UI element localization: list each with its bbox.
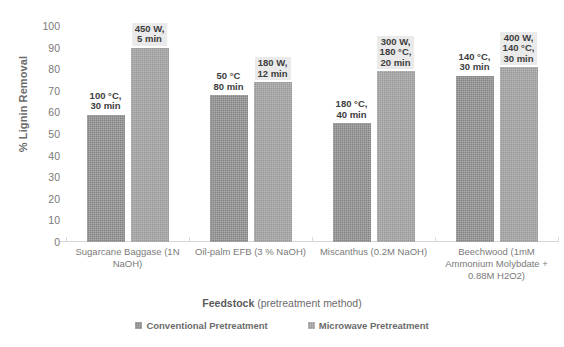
bar-slot: 300 W,180 °C,20 min xyxy=(377,26,415,242)
bar-data-label: 50 °C80 min xyxy=(210,70,246,93)
y-axis-tick: 90 xyxy=(48,42,60,53)
bar-slot: 50 °C80 min xyxy=(210,26,248,242)
y-axis-tick: 30 xyxy=(48,172,60,183)
y-axis-tick: 50 xyxy=(48,129,60,140)
y-axis-tick: 100 xyxy=(42,21,60,32)
bar-slot: 140 °C,30 min xyxy=(456,26,494,242)
y-axis-tick: 60 xyxy=(48,107,60,118)
x-axis-category-label: Oil-palm EFB (3 % NaOH) xyxy=(189,246,312,282)
bar-group: 180 °C,40 min300 W,180 °C,20 min xyxy=(312,26,435,242)
bar-conventional[interactable]: 180 °C,40 min xyxy=(333,123,371,242)
y-axis-tick: 20 xyxy=(48,193,60,204)
legend-swatch-icon xyxy=(308,322,315,329)
x-axis-category-label: Sugarcane Baggase (1N NaOH) xyxy=(66,246,189,282)
x-axis-category-label: Beechwood (1mM Ammonium Molybdate + 0.88… xyxy=(435,246,558,282)
y-axis-tick: 80 xyxy=(48,64,60,75)
bar-slot: 180 °C,40 min xyxy=(333,26,371,242)
x-axis-title: Feedstock (pretreatment method) xyxy=(0,297,564,309)
bar-microwave[interactable]: 300 W,180 °C,20 min xyxy=(377,71,415,242)
legend-item[interactable]: Microwave Pretreatment xyxy=(308,320,429,331)
bar-microwave[interactable]: 180 W,12 min xyxy=(254,82,292,242)
legend-item[interactable]: Conventional Pretreatment xyxy=(135,320,267,331)
x-axis-category-label: Miscanthus (0.2M NaOH) xyxy=(312,246,435,282)
legend-label: Microwave Pretreatment xyxy=(319,320,429,331)
y-axis-tick: 0 xyxy=(54,237,60,248)
bar-microwave[interactable]: 400 W,140 °C,30 min xyxy=(500,67,538,242)
bar-data-label: 180 °C,40 min xyxy=(333,98,371,121)
x-axis-tick-mark xyxy=(66,237,67,242)
chart-legend: Conventional PretreatmentMicrowave Pretr… xyxy=(0,320,564,331)
x-axis-category-labels: Sugarcane Baggase (1N NaOH)Oil-palm EFB … xyxy=(66,246,558,282)
bar-conventional[interactable]: 50 °C80 min xyxy=(210,95,248,242)
y-axis-tick: 70 xyxy=(48,85,60,96)
bar-slot: 400 W,140 °C,30 min xyxy=(500,26,538,242)
bar-slot: 450 W,5 min xyxy=(131,26,169,242)
bar-data-label: 450 W,5 min xyxy=(132,23,168,46)
y-axis-tick-labels: 1009080706050403020100 xyxy=(22,26,60,242)
bar-group: 100 °C,30 min450 W,5 min xyxy=(66,26,189,242)
bar-data-label: 140 °C,30 min xyxy=(456,51,494,74)
bar-conventional[interactable]: 100 °C,30 min xyxy=(87,115,125,242)
bar-data-label: 100 °C,30 min xyxy=(87,90,125,113)
plot-area: 100 °C,30 min450 W,5 min50 °C80 min180 W… xyxy=(66,26,558,242)
x-axis-tick-mark xyxy=(558,237,559,242)
x-axis-tick-mark xyxy=(435,237,436,242)
x-axis-title-bold: Feedstock xyxy=(202,297,254,309)
bar-slot: 180 W,12 min xyxy=(254,26,292,242)
bar-chart: % Lignin Removal 1009080706050403020100 … xyxy=(0,0,564,347)
legend-label: Conventional Pretreatment xyxy=(146,320,267,331)
y-axis-tick: 40 xyxy=(48,150,60,161)
bar-data-label: 180 W,12 min xyxy=(254,57,290,80)
x-axis-tick-mark xyxy=(189,237,190,242)
y-axis-tick: 10 xyxy=(48,215,60,226)
bar-data-label: 400 W,140 °C,30 min xyxy=(500,32,538,66)
bar-conventional[interactable]: 140 °C,30 min xyxy=(456,76,494,242)
bar-group: 50 °C80 min180 W,12 min xyxy=(189,26,312,242)
bar-data-label: 300 W,180 °C,20 min xyxy=(377,36,415,70)
x-axis-title-rest: (pretreatment method) xyxy=(254,297,361,309)
bar-slot: 100 °C,30 min xyxy=(87,26,125,242)
bar-groups: 100 °C,30 min450 W,5 min50 °C80 min180 W… xyxy=(66,26,558,242)
bar-group: 140 °C,30 min400 W,140 °C,30 min xyxy=(435,26,558,242)
bar-microwave[interactable]: 450 W,5 min xyxy=(131,48,169,242)
x-axis-tick-mark xyxy=(312,237,313,242)
legend-swatch-icon xyxy=(135,322,142,329)
